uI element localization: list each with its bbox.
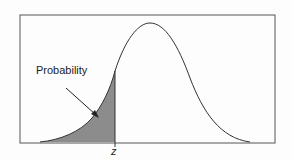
shaded-probability-area <box>40 71 115 142</box>
annotation-arrow <box>66 88 95 114</box>
plot-frame <box>20 15 275 143</box>
z-label: z <box>111 145 117 157</box>
probability-label: Probability <box>36 64 87 76</box>
normal-curve <box>40 23 250 142</box>
normal-distribution-chart <box>0 0 292 160</box>
